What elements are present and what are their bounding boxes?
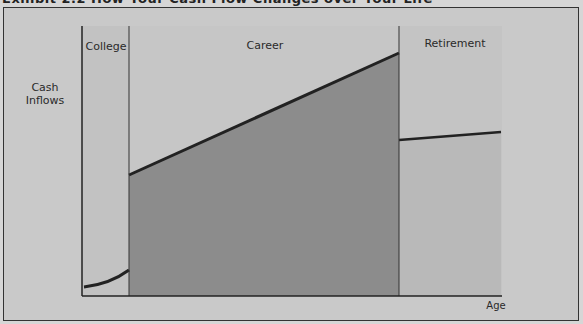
y-axis-label-line1: Cash [20,81,70,94]
stage-label-college: College [84,40,128,53]
college-region [82,26,129,296]
stage-label-retirement: Retirement [415,37,495,50]
stage-label-career: Career [230,39,300,52]
y-axis-label: Cash Inflows [20,81,70,107]
y-axis-label-line2: Inflows [20,94,70,107]
retirement-area [399,132,501,296]
x-axis-label: Age [484,299,508,312]
